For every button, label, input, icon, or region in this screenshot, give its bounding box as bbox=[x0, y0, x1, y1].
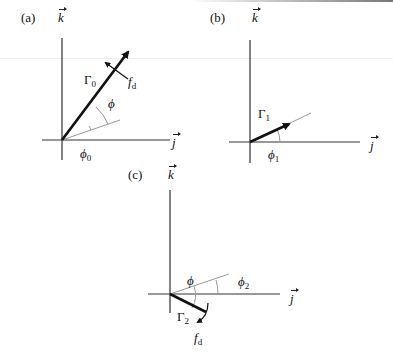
phi0-label: ϕ0 bbox=[80, 146, 91, 163]
fd-label-c: fd bbox=[194, 330, 202, 347]
phi-label-a: ϕ bbox=[108, 96, 115, 112]
k-axis-label-a: k bbox=[58, 10, 64, 26]
diagram-canvas bbox=[0, 0, 393, 363]
phi2-arc bbox=[216, 280, 218, 294]
panel-label-b: (b) bbox=[210, 10, 225, 26]
panel-a bbox=[42, 38, 170, 160]
j-axis-label-c: j bbox=[290, 291, 294, 307]
j-axis-label-a: j bbox=[172, 135, 176, 151]
fd-label-a: fd bbox=[128, 74, 136, 91]
reference-line-c bbox=[170, 274, 229, 294]
phi-arc-a bbox=[96, 107, 108, 124]
gamma2-label: Γ2 bbox=[177, 309, 189, 326]
k-axis-label-b: k bbox=[252, 10, 258, 26]
panel-label-c: (c) bbox=[128, 167, 142, 183]
gamma0-label: Γ0 bbox=[84, 72, 96, 89]
gamma1-vector bbox=[250, 124, 289, 142]
phi-label-c: ϕ bbox=[187, 273, 194, 289]
phi2-label: ϕ2 bbox=[238, 274, 249, 291]
gamma0-vector bbox=[62, 52, 128, 140]
phi1-arc bbox=[277, 129, 280, 142]
phi0-arc bbox=[89, 126, 91, 130]
j-axis-label-b: j bbox=[370, 138, 374, 154]
gamma1-label: Γ1 bbox=[258, 106, 270, 123]
panel-b bbox=[229, 40, 360, 163]
fd-arrow-c bbox=[198, 303, 208, 322]
panel-c bbox=[148, 190, 280, 322]
k-axis-label-c: k bbox=[168, 167, 174, 183]
panel-label-a: (a) bbox=[21, 10, 35, 26]
phi1-label: ϕ1 bbox=[268, 147, 279, 164]
